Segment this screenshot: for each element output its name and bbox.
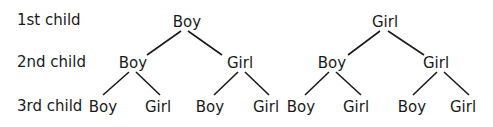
tree2-level3-node: Boy [287, 98, 315, 116]
tree2-level3-node: Boy [398, 98, 426, 116]
tree1-level2-node: Girl [227, 54, 253, 72]
row-label-3rd-child: 3rd child [17, 97, 82, 115]
tree2-level2-node: Boy [318, 54, 346, 72]
tree2-root-node: Girl [372, 13, 398, 31]
probability-tree-diagram: 1st child 2nd child 3rd child Boy Boy Gi… [0, 0, 493, 127]
row-label-2nd-child: 2nd child [17, 53, 86, 71]
tree1-level3-node: Girl [253, 98, 279, 116]
tree2-level3-node: Girl [343, 98, 369, 116]
tree1-level3-node: Girl [145, 98, 171, 116]
tree1-root-node: Boy [173, 13, 201, 31]
tree1-level3-node: Boy [196, 98, 224, 116]
tree2-level2-node: Girl [423, 54, 449, 72]
tree1-level2-node: Boy [119, 54, 147, 72]
tree2-level3-node: Girl [450, 98, 476, 116]
row-label-1st-child: 1st child [17, 11, 81, 29]
tree1-level3-node: Boy [89, 98, 117, 116]
